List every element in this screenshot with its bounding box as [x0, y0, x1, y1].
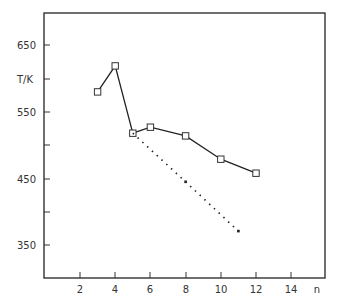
x-tick-14: 14: [285, 284, 298, 295]
x-axis-label: n: [314, 284, 320, 295]
y-tick-550: 550: [17, 107, 36, 118]
x-tick-8: 8: [183, 284, 189, 295]
series-layer: [94, 63, 259, 233]
x-tick-10: 10: [215, 284, 228, 295]
x-tick-6: 6: [147, 284, 153, 295]
square-marker: [112, 63, 118, 69]
x-tick-4: 4: [112, 284, 118, 295]
y-tick-350: 350: [17, 240, 36, 251]
chart: 650 T/K 550 450 350 2 4 6 8 10 12 14 n: [0, 0, 340, 307]
series-line: [98, 66, 256, 173]
dot-marker: [184, 181, 187, 184]
square-marker: [253, 170, 259, 176]
x-ticks: [80, 272, 291, 278]
square-marker: [94, 89, 100, 95]
y-tick-450: 450: [17, 174, 36, 185]
y-tick-650: 650: [17, 40, 36, 51]
dot-marker: [237, 230, 240, 233]
x-tick-12: 12: [250, 284, 263, 295]
series-extrapolated: [133, 133, 240, 232]
y-ticks: [44, 45, 50, 245]
y-axis-label: T/K: [16, 74, 33, 85]
plot-frame: [44, 13, 325, 278]
square-marker: [218, 156, 224, 162]
series-measured: [94, 63, 259, 177]
square-marker: [182, 133, 188, 139]
x-tick-2: 2: [77, 284, 83, 295]
square-marker: [147, 124, 153, 130]
